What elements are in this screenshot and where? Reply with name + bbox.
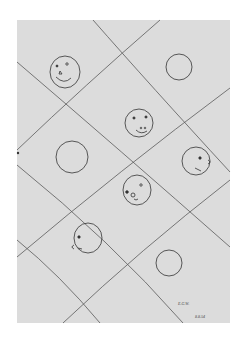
signature: E.G.W. [178, 301, 189, 306]
artwork-drawing [0, 0, 244, 343]
paper [17, 20, 230, 323]
date-inscription: 8.8.54 [195, 314, 205, 319]
